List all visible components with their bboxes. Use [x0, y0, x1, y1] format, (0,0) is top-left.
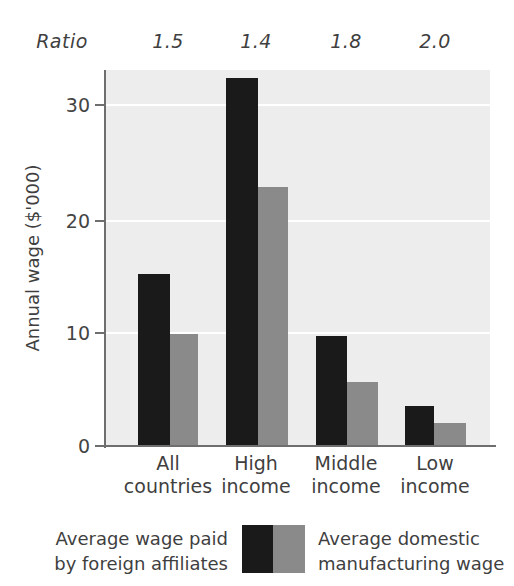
ratio-value-high-income: 1.4 — [240, 30, 272, 52]
legend-label-foreign-affiliates-line2: by foreign affiliates — [54, 551, 228, 576]
bar-foreign-all-countries — [138, 274, 170, 446]
bar-domestic-high-income — [258, 187, 288, 446]
legend-swatch-pair — [242, 525, 305, 573]
y-tick-labels: 30 20 10 0 — [40, 0, 90, 586]
y-tick-mark-30 — [95, 104, 104, 106]
x-tick-label-all-countries-line2: countries — [124, 475, 212, 498]
legend-label-foreign-affiliates-line1: Average wage paid — [56, 528, 229, 549]
gridline-30 — [106, 104, 490, 106]
y-axis-line — [104, 70, 106, 448]
y-axis-title: Annual wage ($'000) — [22, 164, 43, 351]
x-tick-label-low-income-line2: income — [400, 475, 470, 498]
x-tick-label-high-income: High income — [221, 452, 291, 498]
x-axis-line — [96, 445, 496, 447]
x-tick-label-all-countries: All countries — [124, 452, 212, 498]
gridline-20 — [106, 220, 490, 222]
bar-foreign-low-income — [405, 406, 434, 446]
legend-swatch-domestic-manufacturing — [273, 525, 305, 573]
bar-domestic-low-income — [434, 423, 466, 446]
x-tick-label-high-income-line1: High — [234, 452, 278, 474]
x-tick-label-middle-income-line2: income — [311, 475, 381, 498]
y-tick-mark-0 — [95, 445, 104, 447]
x-tick-label-low-income-line1: Low — [416, 452, 453, 474]
legend-label-foreign-affiliates: Average wage paid by foreign affiliates — [54, 526, 228, 576]
y-tick-label-10: 10 — [44, 322, 90, 344]
y-tick-mark-10 — [95, 332, 104, 334]
y-tick-mark-20 — [95, 220, 104, 222]
legend-label-domestic-manufacturing-line2: manufacturing wage — [318, 551, 504, 576]
bar-foreign-high-income — [226, 78, 258, 446]
chart-legend: Average wage paid by foreign affiliates … — [0, 519, 514, 581]
x-tick-label-high-income-line2: income — [221, 475, 291, 498]
bar-domestic-middle-income — [347, 382, 378, 446]
y-tick-label-0: 0 — [44, 435, 90, 457]
bar-domestic-all-countries — [170, 334, 198, 446]
chart-figure: Ratio 1.5 1.4 1.8 2.0 30 20 10 0 A — [0, 0, 514, 586]
x-tick-label-middle-income: Middle income — [311, 452, 381, 498]
y-tick-label-20: 20 — [44, 210, 90, 232]
legend-swatch-foreign-affiliates — [242, 525, 273, 573]
x-tick-label-all-countries-line1: All — [156, 452, 180, 474]
y-tick-label-30: 30 — [44, 94, 90, 116]
ratio-value-low-income: 2.0 — [419, 30, 451, 52]
x-tick-label-low-income: Low income — [400, 452, 470, 498]
ratio-value-all-countries: 1.5 — [152, 30, 184, 52]
bar-foreign-middle-income — [316, 336, 347, 446]
legend-label-domestic-manufacturing-line1: Average domestic — [318, 528, 480, 549]
legend-label-domestic-manufacturing: Average domestic manufacturing wage — [318, 526, 504, 576]
x-tick-label-middle-income-line1: Middle — [315, 452, 378, 474]
ratio-value-middle-income: 1.8 — [330, 30, 362, 52]
plot-area — [106, 70, 490, 446]
